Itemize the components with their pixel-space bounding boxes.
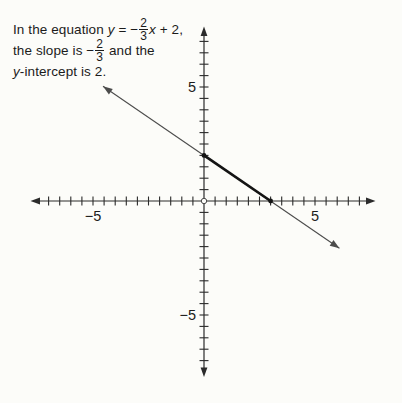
x-axis-label: 5 <box>311 208 319 224</box>
origin-marker <box>201 198 206 203</box>
fraction-denominator: 3 <box>95 50 104 63</box>
x-axis-right-arrow-icon <box>366 198 376 205</box>
annotation-text: = − <box>115 22 139 37</box>
variable-x: x <box>149 22 156 37</box>
line-start-arrow-icon <box>101 84 113 95</box>
y-axis-bottom-arrow-icon <box>201 368 208 378</box>
annotation-text: and the <box>105 43 155 58</box>
annotation-text: In the equation <box>13 22 108 37</box>
highlight-segment <box>202 153 273 203</box>
figure-canvas: −55−55 In the equation y = −23x + 2, the… <box>0 0 402 403</box>
fraction-numerator: 2 <box>139 17 148 29</box>
x-axis-label: −5 <box>85 208 102 224</box>
y-axis-label: −5 <box>179 307 196 323</box>
fraction-two-thirds: 23 <box>95 38 104 63</box>
variable-y: y <box>13 64 20 79</box>
annotation-line-3: y-intercept is 2. <box>13 61 223 82</box>
equation-note: In the equation y = −23x + 2, the slope … <box>13 19 223 82</box>
annotation-text: the slope is − <box>13 43 94 58</box>
intercept-point <box>202 153 207 158</box>
fraction-two-thirds: 23 <box>139 17 148 42</box>
annotation-text: + 2, <box>156 22 183 37</box>
fraction-numerator: 2 <box>95 38 104 50</box>
fraction-denominator: 3 <box>139 29 148 42</box>
x-axis-left-arrow-icon <box>31 198 41 205</box>
variable-y: y <box>108 22 115 37</box>
annotation-line-2: the slope is −23 and the <box>13 40 223 61</box>
line-end-arrow-icon <box>330 240 342 251</box>
intercept-point <box>268 199 273 204</box>
annotation-text: -intercept is 2. <box>20 64 106 79</box>
annotation-line-1: In the equation y = −23x + 2, <box>13 19 223 40</box>
